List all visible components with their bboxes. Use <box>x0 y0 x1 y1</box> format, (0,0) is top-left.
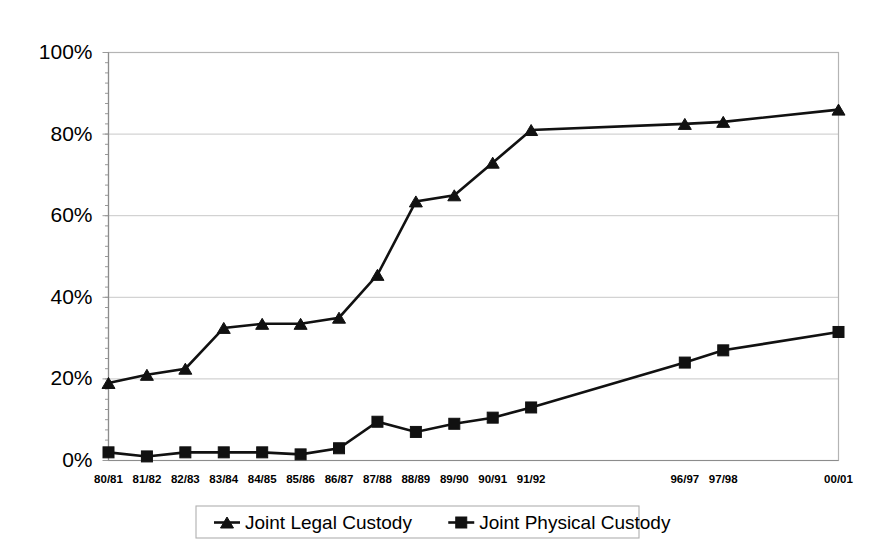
data-point-square <box>295 449 306 460</box>
data-point-square <box>833 326 844 337</box>
x-axis-label: 88/89 <box>401 473 430 485</box>
x-axis-label: 80/81 <box>94 473 123 485</box>
x-axis-label: 91/92 <box>517 473 546 485</box>
x-axis-label: 00/01 <box>824 473 853 485</box>
x-axis-label: 89/90 <box>440 473 469 485</box>
data-point-square <box>487 412 498 423</box>
x-axis-label: 83/84 <box>209 473 238 485</box>
chart-legend: Joint Legal CustodyJoint Physical Custod… <box>196 506 671 538</box>
legend-label: Joint Legal Custody <box>245 512 412 533</box>
data-point-square <box>372 416 383 427</box>
data-point-square <box>410 426 421 437</box>
x-axis-label: 87/88 <box>363 473 392 485</box>
legend-marker-square <box>456 517 467 528</box>
line-chart: 0%20%40%60%80%100% 80/8181/8282/8383/848… <box>0 0 884 560</box>
data-point-square <box>334 443 345 454</box>
data-point-square <box>449 418 460 429</box>
x-axis-label: 90/91 <box>478 473 507 485</box>
y-axis-label: 20% <box>50 366 92 389</box>
y-axis-label: 0% <box>62 448 92 471</box>
y-axis-label: 40% <box>50 285 92 308</box>
legend-label: Joint Physical Custody <box>479 512 671 533</box>
chart-container: 0%20%40%60%80%100% 80/8181/8282/8383/848… <box>0 0 884 560</box>
legend-item-joint-physical-custody[interactable]: Joint Physical Custody <box>448 512 671 533</box>
x-axis-label: 86/87 <box>325 473 354 485</box>
x-axis-label: 84/85 <box>248 473 277 485</box>
data-point-square <box>180 447 191 458</box>
data-point-square <box>526 402 537 413</box>
y-axis-label: 60% <box>50 203 92 226</box>
x-axis-label: 97/98 <box>709 473 738 485</box>
x-axis-label: 82/83 <box>171 473 200 485</box>
data-point-square <box>679 357 690 368</box>
y-axis-label: 100% <box>39 40 93 63</box>
data-point-square <box>141 451 152 462</box>
x-axis-label: 96/97 <box>670 473 699 485</box>
data-point-square <box>257 447 268 458</box>
x-axis-label: 85/86 <box>286 473 315 485</box>
data-point-square <box>103 447 114 458</box>
y-axis-label: 80% <box>50 122 92 145</box>
data-point-square <box>218 447 229 458</box>
data-point-square <box>718 345 729 356</box>
x-axis-label: 81/82 <box>133 473 162 485</box>
